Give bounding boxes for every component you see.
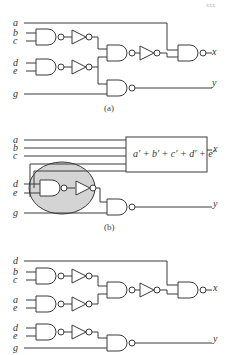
input-label-e: e xyxy=(13,187,18,198)
nand-gate-y xyxy=(107,199,127,215)
nand-gate-y xyxy=(107,80,127,96)
nand-gate-x xyxy=(178,45,198,61)
nand-gate-de xyxy=(36,59,56,75)
input-label-c: c xyxy=(13,274,18,285)
output-label-y: y xyxy=(212,198,218,209)
nand-bubble xyxy=(58,34,64,40)
nand-gate-middle xyxy=(107,282,127,298)
output-label-x: x xyxy=(212,282,218,293)
inverter-1 xyxy=(72,30,86,44)
nand-gate-de xyxy=(40,180,60,196)
panel-c: d b c a e d e g x y xyxy=(13,255,218,353)
input-label-c: c xyxy=(13,35,18,46)
input-label-e: e xyxy=(13,330,18,341)
logic-circuit-figure: xxx a b c d e g x y xyxy=(0,0,226,355)
output-label-y: y xyxy=(212,333,218,344)
input-label-d: d xyxy=(13,255,19,266)
input-label-e: e xyxy=(13,302,18,313)
nand-gate-middle xyxy=(107,45,127,61)
output-label-y: y xyxy=(211,77,217,88)
input-label-c: c xyxy=(13,150,18,161)
nand-gate-de xyxy=(36,324,56,340)
input-label-g: g xyxy=(13,88,18,99)
caption-b: (b) xyxy=(104,222,115,232)
nand-gate-y xyxy=(107,335,127,351)
page-number: xxx xyxy=(206,2,215,8)
inverter-3 xyxy=(140,283,154,297)
caption-a: (a) xyxy=(104,103,114,113)
inverter-2 xyxy=(72,60,86,74)
inverter-4 xyxy=(72,325,86,339)
input-label-g: g xyxy=(13,342,18,353)
inverter-2 xyxy=(72,297,86,311)
nand-gate-bc xyxy=(36,29,56,45)
panel-a: a b c d e g x y xyxy=(13,17,217,113)
input-label-g: g xyxy=(13,207,18,218)
inverter-3 xyxy=(140,46,154,60)
output-label-x: x xyxy=(211,46,217,57)
input-label-e: e xyxy=(13,65,18,76)
inverter-1 xyxy=(72,269,86,283)
nand-gate-ae xyxy=(36,296,56,312)
nand-gate-x xyxy=(178,282,198,298)
nand-gate-bc xyxy=(36,268,56,284)
panel-b: a b c d e g x y a′ + b′ + c′ + d′ + e′ (… xyxy=(13,134,218,232)
box-expression: a′ + b′ + c′ + d′ + e′ xyxy=(133,148,216,159)
